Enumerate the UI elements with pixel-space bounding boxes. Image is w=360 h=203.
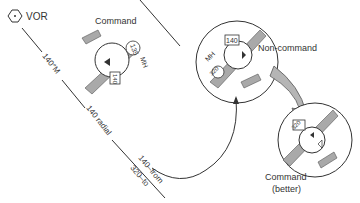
vor-label: VOR [26,11,48,22]
command-aircraft: 135 MH 140 [82,30,149,94]
non-command-obs-value: 140 [226,37,238,44]
non-command-aircraft: 140 320 MH [196,21,278,103]
course-line-segment [62,80,85,108]
command-better-sublabel: (better) [272,184,301,194]
vor-diagram: VOR 140°M 140 radial 140–from 320–to 135… [0,0,360,203]
command-mh-label: MH [139,56,149,69]
heading-indicator [299,127,325,153]
command-better-aircraft: 320 [278,103,352,177]
radial-label: 140 radial [84,104,113,137]
non-command-label: Non-command [258,43,317,53]
track-line [140,0,180,46]
turn-path [152,98,236,179]
command-label: Command [95,16,137,26]
vor-hexagon-icon [8,10,22,22]
course-line-segment [22,28,42,52]
command-obs-value: 140 [112,74,118,85]
bearing-label: 140°M [40,52,62,76]
command-better-label: Command [265,172,307,182]
